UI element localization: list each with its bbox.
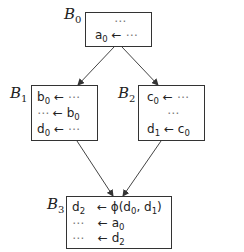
b0-line-2: a0 ← ⋯ — [95, 28, 138, 46]
block-label-b0: B0 — [64, 5, 81, 25]
edge-b1-b3 — [77, 141, 113, 196]
edge-b0-b2 — [122, 47, 158, 85]
b1-line-3: d0 ← ⋯ — [37, 122, 80, 140]
basic-block-b2: c0 ← ⋯ ⋯ d1 ← c0 — [138, 85, 205, 141]
basic-block-b1: b0 ← ⋯ ⋯ ← b0 d0 ← ⋯ — [31, 85, 98, 141]
b2-line-3: d1 ← c0 — [147, 122, 190, 140]
b0-line-1: ⋯ — [114, 14, 126, 28]
block-label-b1: B1 — [10, 84, 27, 104]
block-label-b3: B3 — [47, 195, 64, 215]
edge-b2-b3 — [123, 141, 161, 196]
b3-line-3: ⋯ ← d2 — [72, 231, 125, 249]
b2-line-2: ⋯ — [167, 106, 179, 120]
basic-block-b3: d2 ← ϕ(d0, d1) ⋯ ← a0 ⋯ ← d2 — [66, 196, 172, 249]
edge-b0-b1 — [78, 47, 114, 85]
basic-block-b0: ⋯ a0 ← ⋯ — [85, 12, 152, 47]
block-label-b2: B2 — [118, 84, 135, 104]
